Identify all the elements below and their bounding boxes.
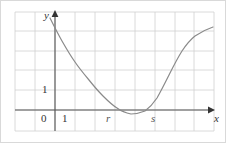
s-intercept-label: s xyxy=(151,113,155,124)
x-tick-label-1: 1 xyxy=(62,113,68,124)
curve-path xyxy=(50,18,213,114)
origin-label: 0 xyxy=(41,113,47,124)
x-axis-label: x xyxy=(214,113,219,124)
y-tick-label-1: 1 xyxy=(42,84,48,95)
plot-canvas xyxy=(0,0,227,144)
y-axis-label: y xyxy=(44,10,49,21)
y-axis-arrow-icon xyxy=(52,10,59,17)
graph-figure: y x 0 1 1 r s xyxy=(0,0,227,144)
r-intercept-label: r xyxy=(106,113,110,124)
